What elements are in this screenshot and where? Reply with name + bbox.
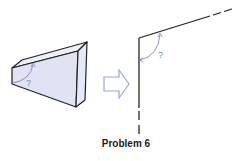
problem-diagram: ? ? — [0, 0, 240, 161]
wedge-block: ? — [12, 42, 87, 107]
edge-angle-arc — [140, 35, 160, 60]
figure-caption: Problem 6 — [0, 138, 240, 149]
edge-angle-view: ? — [139, 9, 232, 134]
block-angle-label: ? — [26, 78, 31, 88]
edge-angle-label: ? — [158, 50, 163, 60]
right-arrow-icon — [104, 70, 129, 98]
